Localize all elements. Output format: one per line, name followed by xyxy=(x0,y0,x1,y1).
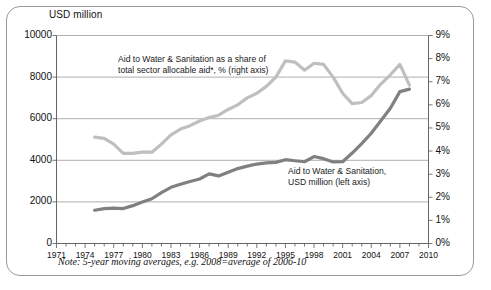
annotation-usd-line2: USD million (left axis) xyxy=(288,177,386,188)
chart-plot-area xyxy=(0,0,491,290)
x-tick-marks-group xyxy=(57,244,429,249)
annotation-usd-series: Aid to Water & Sanitation, USD million (… xyxy=(288,166,386,187)
y-axis-left-tick-label: 8000 xyxy=(0,71,52,82)
annotation-percent-series: Aid to Water & Sanitation as a share of … xyxy=(118,54,268,75)
annotation-percent-line2: total sector allocable aid*, % (right ax… xyxy=(118,65,268,76)
y-axis-left-tick-label: 0 xyxy=(0,237,52,248)
y-axis-right-tick-label: 6% xyxy=(436,98,470,109)
y-axis-right-tick-label: 7% xyxy=(436,75,470,86)
chart-figure: USD million 0200040006000800010000 0%1%2… xyxy=(0,0,491,290)
y-tick-marks-right-group xyxy=(429,36,433,244)
annotation-percent-line1: Aid to Water & Sanitation as a share of xyxy=(118,54,268,65)
y-axis-right-tick-label: 3% xyxy=(436,168,470,179)
y-axis-right-tick-label: 8% xyxy=(436,52,470,63)
annotation-usd-line1: Aid to Water & Sanitation, xyxy=(288,166,386,177)
y-axis-left-tick-label: 10000 xyxy=(0,29,52,40)
y-axis-right-tick-label: 4% xyxy=(436,145,470,156)
y-axis-right-tick-label: 0% xyxy=(436,237,470,248)
x-axis-tick-label: 2010 xyxy=(409,250,449,260)
y-axis-right-tick-label: 1% xyxy=(436,214,470,225)
y-axis-left-tick-label: 6000 xyxy=(0,112,52,123)
y-axis-right-tick-label: 9% xyxy=(436,29,470,40)
y-axis-right-tick-label: 2% xyxy=(436,191,470,202)
y-axis-left-tick-label: 4000 xyxy=(0,154,52,165)
y-tick-marks-left-group xyxy=(53,36,57,244)
data-series-group xyxy=(95,61,410,210)
y-axis-right-tick-label: 5% xyxy=(436,121,470,132)
series-line-usd xyxy=(95,89,410,210)
chart-note: Note: 5-year moving averages, e.g. 2008=… xyxy=(58,256,306,267)
y-axis-left-tick-label: 2000 xyxy=(0,195,52,206)
